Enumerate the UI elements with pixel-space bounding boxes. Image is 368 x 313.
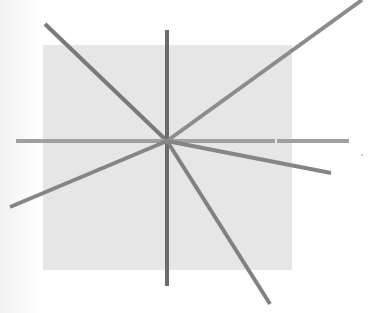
radiating-lines-diagram [0,0,368,313]
center-point [165,139,170,144]
horizontal-line-tick [275,139,277,143]
stray-dot [361,154,363,156]
